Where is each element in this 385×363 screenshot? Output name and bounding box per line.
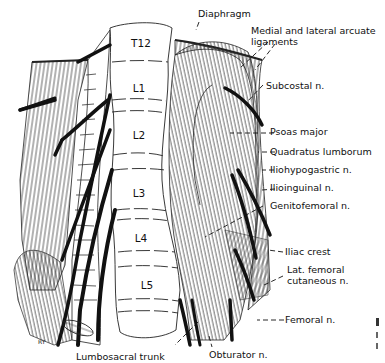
anatomy-figure: T12 L1 L2 L3 L4 L5 Diaphragm Medial and … <box>0 0 385 363</box>
page-edge-mark <box>376 318 379 326</box>
label-lat-femoral-cutaneous-line2: cutaneous n. <box>287 275 349 286</box>
page-edge-mark <box>376 332 378 338</box>
label-obturator-nerve: Obturator n. <box>209 349 267 360</box>
label-psoas-major: Psoas major <box>270 126 328 137</box>
label-subcostal-nerve: Subcostal n. <box>266 80 324 91</box>
vertebra-label: L2 <box>133 129 146 141</box>
vertebra-label: L5 <box>141 279 154 291</box>
label-iliohypogastric-nerve: Iliohypogastric n. <box>270 164 352 175</box>
artist-signature: RY <box>38 338 45 345</box>
vertebra-label: L3 <box>133 187 146 199</box>
page-edge-mark <box>376 343 378 349</box>
label-diaphragm: Diaphragm <box>198 8 251 19</box>
label-arcuate-ligaments-line1: Medial and lateral arcuate <box>251 25 376 36</box>
label-iliac-crest: Iliac crest <box>285 246 331 257</box>
vertebra-label: L4 <box>135 232 148 244</box>
label-genitofemoral-nerve: Genitofemoral n. <box>270 200 350 211</box>
label-quadratus-lumborum: Quadratus lumborum <box>270 146 372 157</box>
vertebra-label: L1 <box>133 82 146 94</box>
label-femoral-nerve: Femoral n. <box>285 314 335 325</box>
label-arcuate-ligaments-line2: ligaments <box>251 36 298 47</box>
label-lat-femoral-cutaneous-line1: Lat. femoral <box>287 264 345 275</box>
label-ilioinguinal-nerve: Ilioinguinal n. <box>270 182 334 193</box>
label-lumbosacral-trunk: Lumbosacral trunk <box>76 351 165 362</box>
vertebra-label: T12 <box>131 37 151 49</box>
